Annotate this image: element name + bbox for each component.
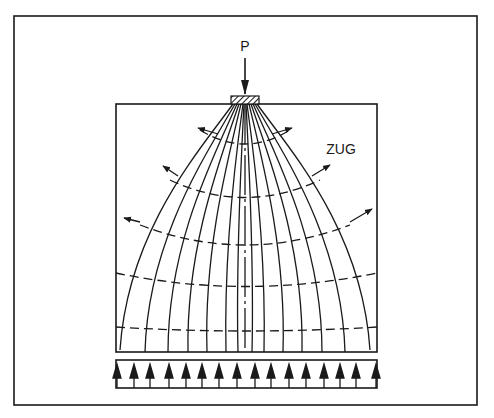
reaction-arrows-icon	[113, 364, 380, 388]
tension-trajectories	[116, 130, 377, 331]
stress-trajectory-diagram: P	[0, 0, 494, 418]
load-arrow-icon	[241, 58, 249, 95]
load-plate	[231, 96, 259, 104]
load-label: P	[240, 38, 249, 54]
tension-label: ZUG	[326, 141, 356, 157]
support-reaction	[113, 360, 380, 388]
